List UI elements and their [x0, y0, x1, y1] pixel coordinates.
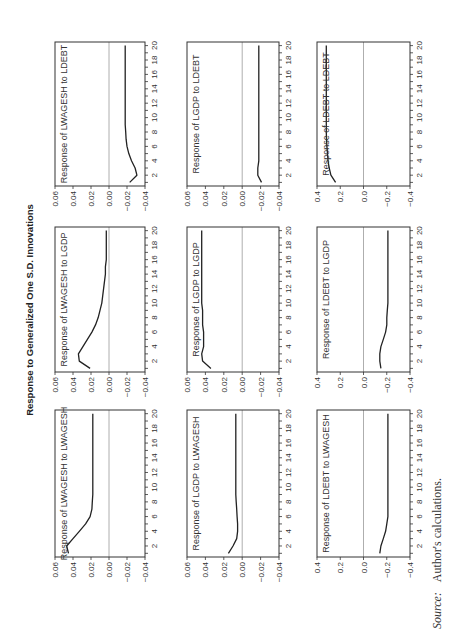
- y-tick-label: −0.04: [141, 376, 150, 397]
- y-tick-label: −0.2: [383, 376, 392, 392]
- x-tick-label: 10: [415, 298, 424, 307]
- y-tick-label: 0.06: [183, 561, 192, 577]
- x-tick-label: 14: [415, 269, 424, 278]
- x-tick-label: 18: [284, 240, 293, 249]
- y-tick-label: 0.00: [105, 561, 114, 577]
- y-tick-label: 0.04: [69, 561, 78, 577]
- x-tick-label: 4: [150, 529, 159, 534]
- x-tick-label: 8: [150, 129, 159, 134]
- y-tick-label: −0.4: [406, 190, 415, 206]
- panel-title: Response of LGDP to LDEBT: [191, 54, 201, 173]
- x-tick-label: 2: [284, 358, 293, 363]
- x-tick-label: 8: [284, 499, 293, 504]
- y-tick-label: 0.02: [220, 190, 229, 206]
- x-tick-label: 20: [150, 409, 159, 418]
- x-tick-label: 18: [150, 423, 159, 432]
- x-tick-label: 4: [284, 158, 293, 163]
- x-tick-label: 14: [284, 269, 293, 278]
- y-tick-label: 0.02: [220, 561, 229, 577]
- y-tick-label: 0.02: [87, 561, 96, 577]
- x-tick-label: 4: [284, 344, 293, 349]
- panel-title: Response of LDEBT to LDEBT: [321, 52, 331, 176]
- y-tick-label: 0.06: [51, 376, 60, 392]
- x-tick-label: 10: [415, 113, 424, 122]
- response-line: [228, 414, 237, 554]
- x-tick-label: 6: [415, 144, 424, 149]
- x-tick-label: 16: [284, 438, 293, 447]
- x-tick-label: 4: [284, 529, 293, 534]
- x-tick-label: 14: [150, 453, 159, 462]
- x-tick-label: 20: [415, 226, 424, 235]
- x-tick-label: 8: [150, 315, 159, 320]
- y-tick-label: −0.02: [257, 561, 266, 582]
- y-tick-label: −0.04: [275, 190, 284, 211]
- y-tick-label: 0.2: [336, 561, 345, 573]
- x-tick-label: 18: [415, 240, 424, 249]
- x-tick-label: 20: [284, 409, 293, 418]
- irf-panel: 24681012141618200.40.20.0−0.2−0.4Respons…: [313, 226, 424, 393]
- y-tick-label: 0.04: [69, 376, 78, 392]
- x-tick-label: 2: [284, 543, 293, 548]
- y-tick-label: 0.2: [336, 376, 345, 388]
- y-tick-label: 0.00: [105, 376, 114, 392]
- y-tick-label: 0.00: [238, 561, 247, 577]
- irf-panel: 24681012141618200.060.040.020.00−0.02−0.…: [183, 226, 293, 398]
- x-tick-label: 16: [284, 255, 293, 264]
- x-tick-label: 2: [284, 172, 293, 177]
- x-tick-label: 14: [150, 269, 159, 278]
- x-tick-label: 6: [284, 144, 293, 149]
- irf-panel: 24681012141618200.40.20.0−0.2−0.4Respons…: [313, 41, 424, 207]
- x-tick-label: 8: [284, 315, 293, 320]
- x-tick-label: 16: [284, 69, 293, 78]
- y-tick-label: 0.06: [51, 190, 60, 206]
- y-tick-label: 0.0: [360, 561, 369, 573]
- irf-figure: Response to Generalized One S.D. Innovat…: [0, 0, 450, 637]
- x-tick-label: 6: [284, 329, 293, 334]
- y-tick-label: 0.06: [183, 376, 192, 392]
- y-tick-label: 0.02: [87, 190, 96, 206]
- x-tick-label: 2: [150, 172, 159, 177]
- x-tick-label: 20: [415, 409, 424, 418]
- figure-title: Response to Generalized One S.D. Innovat…: [24, 204, 35, 416]
- x-tick-label: 10: [150, 298, 159, 307]
- x-tick-label: 8: [415, 129, 424, 134]
- x-tick-label: 20: [415, 41, 424, 50]
- impulse-response-grid: Response to Generalized One S.D. Innovat…: [0, 0, 450, 637]
- y-tick-label: −0.04: [141, 190, 150, 211]
- irf-panel: 24681012141618200.060.040.020.00−0.02−0.…: [183, 41, 293, 212]
- x-tick-label: 12: [284, 467, 293, 476]
- x-tick-label: 16: [150, 69, 159, 78]
- x-tick-label: 16: [415, 255, 424, 264]
- x-tick-label: 2: [150, 543, 159, 548]
- panel-grid: 24681012141618200.060.040.020.00−0.02−0.…: [51, 41, 424, 583]
- x-tick-label: 6: [150, 144, 159, 149]
- y-tick-label: 0.4: [313, 376, 322, 388]
- response-line: [380, 414, 388, 554]
- irf-panel: 24681012141618200.060.040.020.00−0.02−0.…: [51, 226, 159, 398]
- x-tick-label: 2: [415, 358, 424, 363]
- y-tick-label: 0.4: [313, 561, 322, 573]
- x-tick-label: 12: [415, 98, 424, 107]
- x-tick-label: 18: [415, 55, 424, 64]
- x-tick-label: 4: [150, 158, 159, 163]
- y-tick-label: −0.02: [123, 376, 132, 397]
- x-tick-label: 10: [150, 482, 159, 491]
- irf-panel: 24681012141618200.060.040.020.00−0.02−0.…: [183, 409, 293, 583]
- panel-title: Response of LWAGESH to LWAGESH: [59, 407, 69, 561]
- source-caption: Source:Author's calculations.: [430, 478, 445, 629]
- response-line: [67, 414, 93, 554]
- y-tick-label: −0.2: [383, 561, 392, 577]
- x-tick-label: 12: [150, 467, 159, 476]
- x-tick-label: 4: [415, 344, 424, 349]
- x-tick-label: 16: [150, 438, 159, 447]
- x-tick-label: 18: [150, 55, 159, 64]
- x-tick-label: 16: [150, 255, 159, 264]
- y-tick-label: −0.04: [275, 376, 284, 397]
- y-tick-label: −0.4: [406, 376, 415, 392]
- y-tick-label: −0.04: [141, 561, 150, 582]
- y-tick-label: 0.06: [183, 190, 192, 206]
- y-tick-label: 0.4: [313, 190, 322, 202]
- x-tick-label: 8: [284, 129, 293, 134]
- y-tick-label: 0.0: [360, 190, 369, 202]
- x-tick-label: 6: [415, 329, 424, 334]
